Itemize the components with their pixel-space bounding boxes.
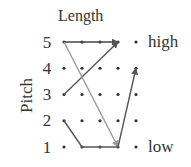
grid-dot [134,145,137,148]
grid-dot [80,93,83,96]
grid-dot [62,67,65,70]
grid-dot [98,93,101,96]
grid-dot [80,67,83,70]
pitch-length-grid [0,0,191,167]
grid-dot [62,145,65,148]
grid-dot [134,40,137,43]
grid-dot [116,93,119,96]
grid-dot [116,67,119,70]
grid-dot [98,119,101,122]
grid-dot [116,119,119,122]
grid-dots [62,40,137,148]
grid-dot [134,93,137,96]
grid-dot [134,119,137,122]
grid-dot [80,119,83,122]
grid-dot [98,67,101,70]
path-5-to-4-1 [64,42,118,147]
path-3-to-4-5 [64,42,118,95]
path-2-low-up [64,68,136,147]
